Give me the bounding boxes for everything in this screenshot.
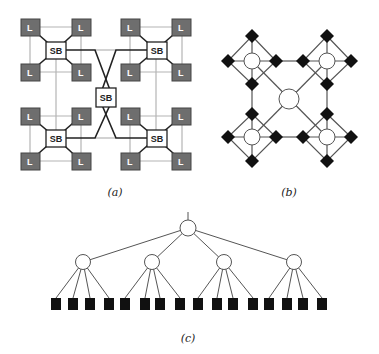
diagram-c: (c) <box>51 212 327 345</box>
svg-text:L: L <box>178 23 184 33</box>
diagram-b: (b) <box>221 29 358 199</box>
caption-c: (c) <box>181 332 196 345</box>
svg-text:L: L <box>27 157 33 167</box>
svg-text:SB: SB <box>100 93 113 103</box>
svg-text:SB: SB <box>151 46 164 56</box>
diagram-c-leaves <box>51 298 327 310</box>
caption-a: (a) <box>107 186 122 199</box>
svg-text:L: L <box>78 112 84 122</box>
svg-text:L: L <box>27 68 33 78</box>
svg-text:L: L <box>27 23 33 33</box>
svg-text:L: L <box>127 157 133 167</box>
svg-text:L: L <box>27 112 33 122</box>
caption-b: (b) <box>281 186 297 199</box>
svg-text:L: L <box>127 23 133 33</box>
svg-text:L: L <box>178 112 184 122</box>
svg-text:L: L <box>127 112 133 122</box>
svg-text:L: L <box>127 68 133 78</box>
diagram-c-nodes <box>76 220 302 270</box>
svg-text:L: L <box>178 157 184 167</box>
svg-text:L: L <box>178 68 184 78</box>
diagram-b-circles <box>244 53 335 145</box>
svg-text:SB: SB <box>50 46 63 56</box>
svg-text:L: L <box>78 23 84 33</box>
svg-text:L: L <box>78 68 84 78</box>
figure-canvas: LL LL LL LL LL LL LL LL SB SB SB SB SB (… <box>0 0 379 354</box>
svg-text:L: L <box>78 157 84 167</box>
svg-text:SB: SB <box>50 134 63 144</box>
diagram-a: LL LL LL LL LL LL LL LL SB SB SB SB SB (… <box>21 19 191 199</box>
svg-text:SB: SB <box>151 134 164 144</box>
